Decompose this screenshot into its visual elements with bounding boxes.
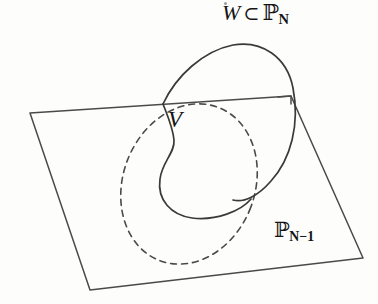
math-diagram-canvas [0, 0, 378, 304]
subset-operator: ⊂ [240, 2, 262, 25]
label-pn-minus-1-subscript: N−1 [289, 229, 314, 244]
scan-speck [224, 2, 227, 5]
w-surface-outline [163, 44, 295, 201]
blackboard-p-plane-icon: ℙ [274, 218, 289, 242]
label-pn-minus-1: ℙN−1 [274, 220, 314, 244]
label-v: V [168, 108, 182, 131]
hidden-intersection-ellipse [98, 84, 280, 284]
label-w-subset-pn: W⊂ℙN [222, 2, 289, 27]
plane-corner-notch [278, 96, 291, 104]
blackboard-p-icon: ℙ [263, 0, 279, 25]
label-pn-subscript: N [279, 11, 289, 27]
